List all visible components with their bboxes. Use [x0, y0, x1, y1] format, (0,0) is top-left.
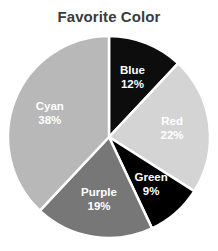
pie-slice-value-purple: 19% [87, 200, 110, 212]
pie-slice-value-blue: 12% [121, 78, 144, 90]
pie-slice-value-green: 9% [143, 185, 160, 197]
pie-slice-value-cyan: 38% [38, 114, 61, 126]
pie-slice-label-cyan: Cyan [36, 100, 64, 112]
pie-chart-figure: Favorite Color Blue12%Red22%Green9%Purpl… [0, 0, 218, 251]
pie-chart-svg: Blue12%Red22%Green9%Purple19%Cyan38% [0, 0, 218, 251]
pie-slice-label-green: Green [134, 171, 167, 183]
pie-slice-label-blue: Blue [120, 64, 145, 76]
pie-slice-label-red: Red [161, 115, 183, 127]
pie-slice-label-purple: Purple [81, 186, 117, 198]
pie-slice-value-red: 22% [161, 129, 184, 141]
